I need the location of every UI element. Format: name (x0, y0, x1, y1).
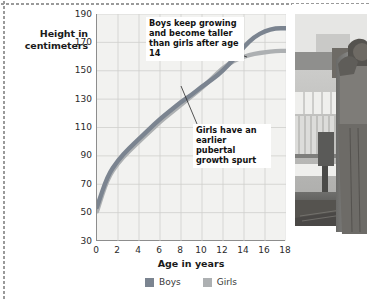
y-tick-label: 110 (66, 122, 92, 132)
x-tick-label: 14 (234, 245, 252, 255)
x-tick-label: 2 (108, 245, 126, 255)
x-tick-label: 4 (129, 245, 147, 255)
y-tick-label: 130 (66, 94, 92, 104)
classroom-photo (292, 4, 370, 297)
legend-swatch-icon (203, 278, 212, 287)
x-tick-label: 0 (87, 245, 105, 255)
legend-label: Boys (159, 277, 181, 287)
y-tick-label: 190 (66, 9, 92, 19)
x-tick-label: 16 (255, 245, 273, 255)
x-axis-title: Age in years (96, 258, 286, 269)
legend-item-boys: Boys (145, 277, 181, 287)
x-tick-label: 10 (192, 245, 210, 255)
legend-item-girls: Girls (203, 277, 237, 287)
x-tick-label: 12 (213, 245, 231, 255)
girls-annotation: Girls have an earlier pubertal growth sp… (193, 124, 271, 168)
y-tick-label: 170 (66, 37, 92, 47)
y-tick-label: 70 (66, 179, 92, 189)
boys-annotation: Boys keep growing and become taller than… (146, 17, 244, 61)
legend-label: Girls (217, 277, 237, 287)
legend-swatch-icon (145, 278, 154, 287)
growth-chart: Height in centimeters 305070901101301501… (0, 0, 290, 301)
x-tick-label: 6 (150, 245, 168, 255)
y-tick-label: 150 (66, 65, 92, 75)
x-tick-label: 8 (171, 245, 189, 255)
chart-legend: BoysGirls (96, 277, 286, 287)
y-tick-label: 30 (66, 236, 92, 246)
y-tick-label: 50 (66, 207, 92, 217)
photo-thumbnail (292, 4, 370, 297)
figure-root: Height in centimeters 305070901101301501… (0, 0, 370, 301)
y-tick-label: 90 (66, 150, 92, 160)
